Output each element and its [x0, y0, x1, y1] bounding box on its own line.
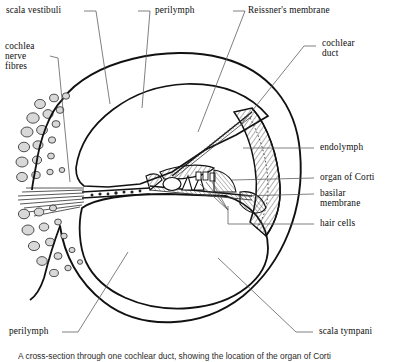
label-cochlea-nerve-fibres-line3: fibres	[5, 61, 27, 72]
label-basilar-membrane-line1: basilar	[320, 188, 346, 199]
label-cochlea-nerve-fibres-line2: nerve	[5, 51, 26, 62]
label-cochlear-duct-line1: cochlear	[322, 38, 355, 49]
label-hair-cells: hair cells	[320, 218, 355, 229]
label-scala-vestibuli: scala vestibuli	[6, 5, 61, 16]
cochlea-diagram: scala vestibuli perilymph Reissner's mem…	[0, 0, 395, 362]
scala-tympani-chamber	[80, 194, 268, 309]
label-basilar-membrane-line2: membrane	[320, 198, 360, 209]
leader-cochlea-nerve-fibres	[50, 56, 70, 182]
label-cochlea-nerve-fibres-line1: cochlea	[5, 41, 34, 52]
label-endolymph: endolymph	[320, 142, 363, 153]
label-cochlear-duct-line2: duct	[322, 48, 339, 59]
leader-scala-vestibuli	[84, 11, 110, 104]
label-perilymph-bottom: perilymph	[9, 326, 49, 337]
label-perilymph-top: perilymph	[155, 5, 195, 16]
label-organ-of-corti: organ of Corti	[320, 172, 375, 183]
label-reissners-membrane: Reissner's membrane	[248, 5, 330, 16]
label-scala-tympani: scala tympani	[319, 326, 372, 337]
figure-caption: A cross-section through one cochlear duc…	[18, 352, 390, 362]
